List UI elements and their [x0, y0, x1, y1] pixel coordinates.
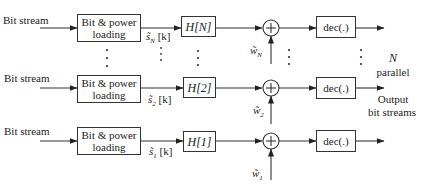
signal-label-1: s̃1 [k]	[149, 145, 172, 162]
loading-line2: loading	[93, 89, 126, 101]
channel-block-N: H[N]	[181, 16, 216, 37]
loading-block-N: Bit & power loading	[77, 14, 141, 42]
loading-block-2: Bit & power loading	[77, 75, 141, 103]
decoder-block-N: dec(.)	[316, 16, 356, 38]
ellipsis-dots	[106, 47, 362, 67]
channel-block-1: H[1]	[183, 131, 216, 152]
input-label-N: Bit stream	[3, 14, 49, 26]
output-annotation-n: N	[389, 52, 397, 64]
output-annotation-parallel: parallel	[377, 66, 410, 78]
signal-label-2: s̃2 [k]	[148, 93, 171, 110]
output-annotation-output: Output	[378, 93, 409, 105]
noise-label-1: w̃1	[252, 167, 263, 184]
channel-block-2: H[2]	[183, 77, 216, 98]
loading-line1: Bit & power	[82, 77, 137, 89]
input-label-1: Bit stream	[4, 125, 50, 137]
decoder-block-1: dec(.)	[316, 130, 356, 152]
diagram-connections	[0, 0, 436, 185]
loading-line2: loading	[93, 141, 126, 153]
input-label-2: Bit stream	[4, 72, 50, 84]
loading-line2: loading	[93, 28, 126, 40]
signal-label-N: s̃N [k]	[146, 30, 171, 47]
noise-label-2: w̃2	[253, 104, 264, 121]
loading-block-1: Bit & power loading	[77, 127, 141, 155]
decoder-block-2: dec(.)	[316, 77, 356, 99]
output-annotation-bit-streams: bit streams	[368, 106, 416, 118]
loading-line1: Bit & power	[82, 16, 137, 28]
noise-label-N: w̃N	[250, 44, 262, 61]
loading-line1: Bit & power	[82, 129, 137, 141]
